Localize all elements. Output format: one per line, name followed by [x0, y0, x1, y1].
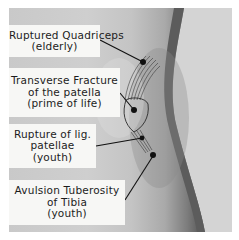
label-line: (youth): [9, 208, 125, 220]
label-ruptured-quadriceps: Ruptured Quadriceps (elderly): [9, 25, 100, 57]
label-rupture-lig-patellae: Rupture of lig. patellae (youth): [9, 124, 96, 168]
label-line: (youth): [9, 152, 96, 164]
quadriceps-rupture-dot: [140, 59, 146, 65]
ligament-rupture-dot: [140, 136, 145, 141]
patellar-ligament-fibers: [131, 130, 152, 153]
label-transverse-fracture-patella: Transverse Fracture of the patella (prim…: [9, 68, 120, 117]
injury-site-markers: [131, 59, 156, 158]
tibial-tuberosity-dot: [150, 152, 156, 158]
label-line: (elderly): [9, 41, 100, 53]
label-avulsion-tuberosity-tibia: Avulsion Tuberosity of Tibia (youth): [9, 180, 125, 225]
label-line: (prime of life): [9, 98, 120, 110]
patella-fracture-dot: [131, 107, 137, 113]
